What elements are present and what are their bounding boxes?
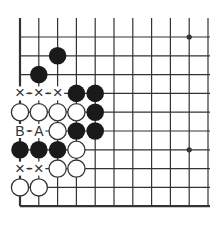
black-stone xyxy=(86,85,104,103)
black-stone xyxy=(68,85,86,103)
point-label: × xyxy=(34,159,44,178)
go-board: ×××BA×× xyxy=(0,0,220,228)
white-stone xyxy=(30,104,47,121)
black-stone xyxy=(68,122,86,140)
white-stone xyxy=(49,160,66,177)
white-stone xyxy=(68,104,85,121)
point-label: × xyxy=(15,83,25,102)
point-label: A xyxy=(34,123,44,139)
white-stone xyxy=(11,179,28,196)
black-stone xyxy=(86,122,104,140)
black-stone xyxy=(30,141,48,159)
white-stone xyxy=(68,141,85,158)
black-stone xyxy=(49,141,67,159)
star-point-icon xyxy=(187,147,192,152)
white-stone xyxy=(49,122,66,139)
connector-dot xyxy=(28,168,31,170)
white-stone xyxy=(49,104,66,121)
connector-dot xyxy=(28,93,31,95)
point-label: × xyxy=(15,159,25,178)
point-label: × xyxy=(34,83,44,102)
white-stone xyxy=(30,179,47,196)
point-label: B xyxy=(15,123,24,139)
point-label: × xyxy=(53,83,63,102)
white-stone xyxy=(68,160,85,177)
black-stone xyxy=(86,103,104,121)
black-stone xyxy=(11,141,29,159)
black-stone xyxy=(49,47,67,65)
white-stone xyxy=(11,104,28,121)
connector-dot xyxy=(47,93,50,95)
star-point-icon xyxy=(187,34,192,39)
connector-dot xyxy=(28,130,31,132)
black-stone xyxy=(30,66,48,84)
